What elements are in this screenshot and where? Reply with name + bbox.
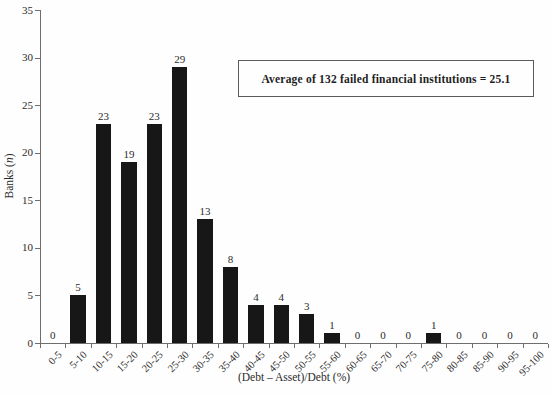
histogram-bar	[223, 267, 239, 343]
x-axis-tick	[192, 344, 193, 348]
y-axis-tick-label: 25	[7, 100, 33, 111]
histogram-bar	[299, 314, 315, 343]
bar-value-label: 0	[396, 329, 420, 341]
x-axis-tick	[446, 344, 447, 348]
average-annotation-box: Average of 132 failed financial institut…	[238, 60, 534, 97]
x-axis-tick	[548, 344, 549, 348]
y-axis-tick-label: 15	[7, 195, 33, 206]
bar-value-label: 1	[320, 319, 344, 331]
y-axis-tick	[35, 153, 40, 154]
x-axis-tick	[472, 344, 473, 348]
histogram-bar	[121, 162, 137, 343]
bar-value-label: 1	[422, 319, 446, 331]
y-axis-tick	[35, 105, 40, 106]
bar-value-label: 0	[371, 329, 395, 341]
bar-value-label: 29	[168, 53, 192, 65]
bar-value-label: 23	[142, 110, 166, 122]
x-axis-tick	[396, 344, 397, 348]
bar-value-label: 0	[498, 329, 522, 341]
histogram-bar	[172, 67, 188, 343]
x-axis-tick	[40, 344, 41, 348]
histogram-bar	[248, 305, 264, 343]
y-axis-tick	[35, 10, 40, 11]
x-axis-tick	[497, 344, 498, 348]
x-axis-tick	[370, 344, 371, 348]
bar-value-label: 4	[269, 291, 293, 303]
y-axis-tick-label: 0	[7, 338, 33, 349]
bar-value-label: 0	[473, 329, 497, 341]
x-axis-tick	[345, 344, 346, 348]
y-axis-tick-label: 35	[7, 5, 33, 16]
x-axis-tick	[218, 344, 219, 348]
x-axis-tick	[243, 344, 244, 348]
x-axis-tick	[269, 344, 270, 348]
bar-value-label: 0	[346, 329, 370, 341]
y-axis-tick	[35, 200, 40, 201]
bar-value-label: 8	[219, 253, 243, 265]
x-category-label: 0-5	[46, 349, 64, 367]
histogram-bar	[197, 219, 213, 343]
bar-value-label: 0	[41, 329, 65, 341]
histogram-bar	[324, 333, 340, 343]
y-axis-tick-label: 5	[7, 290, 33, 301]
y-axis-tick-label: 20	[7, 147, 33, 158]
bar-value-label: 13	[193, 205, 217, 217]
x-axis-tick	[91, 344, 92, 348]
y-axis-tick	[35, 58, 40, 59]
bar-value-label: 5	[66, 281, 90, 293]
bar-value-label: 0	[447, 329, 471, 341]
histogram-bar	[274, 305, 290, 343]
bar-value-label: 19	[117, 148, 141, 160]
bar-value-label: 23	[92, 110, 116, 122]
histogram-bar	[147, 124, 163, 343]
x-axis-tick	[65, 344, 66, 348]
x-axis-tick	[116, 344, 117, 348]
histogram-bar	[96, 124, 112, 343]
x-axis-tick	[167, 344, 168, 348]
x-axis-tick	[142, 344, 143, 348]
x-axis-tick	[523, 344, 524, 348]
x-axis-title: (Debt – Asset)/Debt (%)	[40, 371, 548, 383]
bar-value-label: 0	[523, 329, 547, 341]
y-axis-tick	[35, 248, 40, 249]
bar-value-label: 3	[295, 300, 319, 312]
x-axis-tick	[294, 344, 295, 348]
histogram-bar	[426, 333, 442, 343]
y-axis-tick-label: 30	[7, 52, 33, 63]
histogram-bar	[70, 295, 86, 343]
average-annotation-text: Average of 132 failed financial institut…	[261, 73, 510, 85]
x-category-label: 5-10	[67, 349, 88, 370]
y-axis-tick-label: 10	[7, 242, 33, 253]
y-axis-line	[40, 10, 41, 343]
failed-institutions-histogram: Banks (n) 0510152025303500-555-102310-15…	[0, 0, 551, 396]
x-axis-tick	[421, 344, 422, 348]
bar-value-label: 4	[244, 291, 268, 303]
x-axis-tick	[319, 344, 320, 348]
y-axis-tick	[35, 295, 40, 296]
